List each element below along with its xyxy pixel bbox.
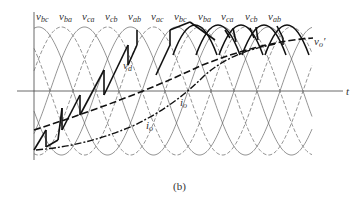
label-io-left: io <box>146 120 153 133</box>
phase-label-ba: vba <box>59 11 72 24</box>
phase-label-cb: vcb <box>245 11 257 24</box>
phase-label-bc: vbc <box>36 11 48 24</box>
phase-label-bc: vbc <box>174 11 186 24</box>
figure-caption: (b) <box>0 180 359 192</box>
label-vd: vd <box>123 60 132 73</box>
phase-label-ac: vac <box>151 11 163 24</box>
phase-label-ba: vba <box>198 11 211 24</box>
label-io-right: io <box>180 97 187 110</box>
label-vo-prime: vo′ <box>314 36 325 49</box>
output-voltage-vd <box>34 22 309 150</box>
phase-label-ab: vab <box>128 11 141 24</box>
phase-label-ca: vca <box>221 11 233 24</box>
io-curve <box>36 44 275 150</box>
phase-label-ab: vab <box>268 11 281 24</box>
label-t: t <box>346 86 349 97</box>
phase-label-cb: vcb <box>105 11 117 24</box>
phase-label-ca: vca <box>82 11 94 24</box>
